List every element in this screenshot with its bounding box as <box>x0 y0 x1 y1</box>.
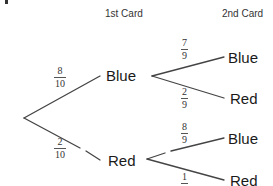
prob-first-blue: 8 10 <box>54 66 66 89</box>
node-red-blue: Blue <box>228 131 258 146</box>
branch-root-red-tail <box>86 151 100 160</box>
numerator: 8 <box>181 122 188 132</box>
denominator: 9 <box>181 185 188 186</box>
node-first-blue: Blue <box>106 68 136 83</box>
branch-root-red <box>24 118 80 148</box>
numerator: 2 <box>181 87 188 97</box>
prob-blue-blue: 7 9 <box>181 38 188 61</box>
branch-blue-blue <box>152 57 224 76</box>
numerator: 1 <box>181 172 188 182</box>
numerator: 7 <box>181 38 188 48</box>
header-second-card: 2nd Card <box>222 8 263 19</box>
prob-blue-red: 2 9 <box>181 87 188 110</box>
denominator: 10 <box>54 79 66 89</box>
denominator: 9 <box>181 100 188 110</box>
prob-red-red: 1 9 <box>181 172 188 186</box>
prob-first-red: 2 10 <box>54 137 66 160</box>
denominator: 10 <box>54 150 66 160</box>
prob-red-blue: 8 9 <box>181 122 188 145</box>
header-first-card: 1st Card <box>105 8 143 19</box>
branch-red-blue-b <box>171 138 224 151</box>
node-blue-red: Red <box>230 91 258 106</box>
denominator: 9 <box>181 135 188 145</box>
branch-red-blue-a <box>147 153 165 159</box>
numerator: 8 <box>54 66 66 76</box>
numerator: 2 <box>54 137 66 147</box>
tree-diagram: 1st Card 2nd Card 8 10 2 10 Blue Red 7 9… <box>0 0 273 186</box>
node-first-red: Red <box>108 153 136 168</box>
node-blue-blue: Blue <box>228 50 258 65</box>
node-red-red: Red <box>230 173 258 186</box>
branch-blue-red <box>152 76 224 98</box>
denominator: 9 <box>181 51 188 61</box>
